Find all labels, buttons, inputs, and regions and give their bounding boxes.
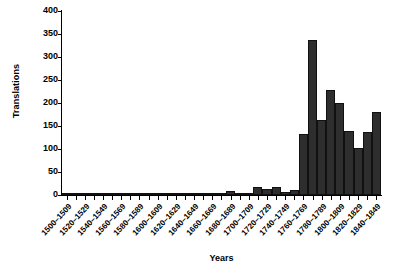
bar-slot: [317, 11, 326, 195]
bar-slot: [144, 11, 153, 195]
bar: [281, 192, 290, 195]
y-tick-label: 0: [53, 189, 58, 199]
y-tick-label: 350: [43, 28, 58, 38]
bar: [290, 190, 299, 195]
bar: [62, 193, 71, 195]
bar-slot: [335, 11, 344, 195]
bar-slot: [354, 11, 363, 195]
bar: [244, 193, 253, 195]
bar-slot: [299, 11, 308, 195]
bar: [363, 132, 372, 195]
y-tick-label: 200: [43, 97, 58, 107]
bar-slot: [190, 11, 199, 195]
bar: [326, 90, 335, 195]
bar-slot: [171, 11, 180, 195]
y-tick-label: 100: [43, 143, 58, 153]
bar-slot: [153, 11, 162, 195]
y-axis-title: Translations: [11, 31, 21, 151]
bar: [98, 193, 107, 195]
bar: [108, 193, 117, 195]
bar-slot: [199, 11, 208, 195]
bar-slot: [262, 11, 271, 195]
plot-area: 050100150200250300350400: [62, 11, 381, 195]
y-tick-label: 300: [43, 51, 58, 61]
bar-slot: [290, 11, 299, 195]
bar: [162, 193, 171, 195]
bar-slot: [226, 11, 235, 195]
bar: [71, 193, 80, 195]
bar-slot: [363, 11, 372, 195]
bar-slot: [372, 11, 381, 195]
bar-slot: [162, 11, 171, 195]
y-tick-label: 250: [43, 74, 58, 84]
bar-slot: [180, 11, 189, 195]
bar-slot: [108, 11, 117, 195]
bar-slot: [62, 11, 71, 195]
bar: [135, 193, 144, 195]
bar: [190, 193, 199, 195]
bar: [199, 193, 208, 195]
bar-slot: [89, 11, 98, 195]
bar: [235, 193, 244, 195]
bar: [308, 40, 317, 195]
bar: [153, 193, 162, 195]
bar: [226, 191, 235, 195]
y-tick-label: 50: [48, 166, 58, 176]
x-axis-title: Years: [62, 253, 381, 263]
bar-slot: [135, 11, 144, 195]
bar-slot: [117, 11, 126, 195]
bar: [372, 112, 381, 195]
bar-slot: [253, 11, 262, 195]
bar: [208, 193, 217, 195]
bar: [117, 193, 126, 195]
bar-slot: [98, 11, 107, 195]
bar-slot: [126, 11, 135, 195]
bar: [180, 193, 189, 195]
bar-slot: [281, 11, 290, 195]
bar: [171, 193, 180, 195]
bar-slot: [272, 11, 281, 195]
bar: [344, 131, 353, 195]
bar: [354, 148, 363, 195]
bar-slot: [235, 11, 244, 195]
x-label-slot: 1840–1849: [372, 200, 381, 252]
bar: [217, 193, 226, 195]
y-tick-label: 150: [43, 120, 58, 130]
bar: [89, 193, 98, 195]
bar: [335, 103, 344, 195]
y-tick-label: 400: [43, 5, 58, 15]
x-axis-tick-labels: 1500–15091520–15291540–15491560–15691580…: [62, 200, 381, 252]
bar-chart: Translations 050100150200250300350400 15…: [0, 0, 395, 273]
bar: [317, 120, 326, 195]
bar-slot: [326, 11, 335, 195]
bar: [262, 189, 271, 195]
bar: [144, 193, 153, 195]
bar-slot: [80, 11, 89, 195]
bar: [253, 187, 262, 195]
bar-slot: [217, 11, 226, 195]
bar: [272, 187, 281, 195]
bar-slot: [244, 11, 253, 195]
bar: [299, 134, 308, 195]
bar-slot: [308, 11, 317, 195]
bar: [80, 193, 89, 195]
bar-slot: [344, 11, 353, 195]
bar-slot: [71, 11, 80, 195]
bar-series: [62, 11, 381, 195]
bar-slot: [208, 11, 217, 195]
bar: [126, 193, 135, 195]
